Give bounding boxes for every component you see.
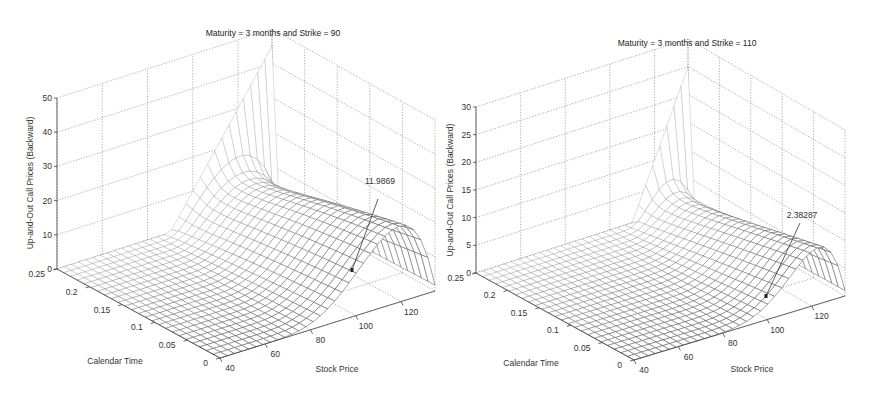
y-tick-label: 0.15 <box>511 308 528 318</box>
y-tick-label: 0.1 <box>547 325 559 335</box>
z-tick-label: 15 <box>462 185 472 195</box>
y-tick-label: 0 <box>617 360 622 370</box>
z-tick-label: 30 <box>462 102 472 112</box>
z-axis-label: Up-and-Out Call Prices (Backward) <box>445 123 455 256</box>
x-tick-label: 40 <box>639 365 649 375</box>
z-tick-label: 25 <box>462 130 472 140</box>
y-axis-label: Calendar Time <box>503 358 559 368</box>
surface-plot-strike-110: 05101520253040608010012000.050.10.150.20… <box>0 0 882 402</box>
y-tick-label: 0.25 <box>447 273 464 283</box>
annotation-label: 2.38287 <box>787 210 818 220</box>
grid-line <box>476 39 845 130</box>
z-tick-label: 0 <box>466 268 471 278</box>
x-tick-label: 100 <box>770 325 784 335</box>
z-tick-label: 5 <box>466 240 471 250</box>
chart-title: Maturity = 3 months and Strike = 110 <box>618 38 757 48</box>
y-tick-label: 0.2 <box>484 290 496 300</box>
x-tick-label: 120 <box>815 311 829 321</box>
z-tick-label: 20 <box>462 157 472 167</box>
z-tick-label: 10 <box>462 213 472 223</box>
figure: 0102030405040608010012000.050.10.150.20.… <box>0 0 882 402</box>
y-tick-label: 0.05 <box>574 343 591 353</box>
x-axis-label: Stock Price <box>731 364 774 374</box>
axes-right: 05101520253040608010012000.050.10.150.20… <box>445 38 845 375</box>
x-tick-label: 80 <box>728 338 738 348</box>
x-tick-label: 60 <box>684 352 694 362</box>
